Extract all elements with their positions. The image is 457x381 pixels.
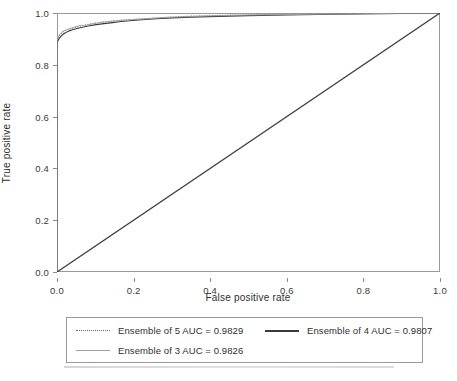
y-tick-mark [53,117,57,118]
legend: Ensemble of 5 AUC = 0.9829 Ensemble of 4… [66,317,423,363]
legend-label-ensemble-of-4: Ensemble of 4 AUC = 0.9807 [307,325,432,336]
legend-line-swatch-dotted-icon [76,325,110,335]
x-tick-mark [134,278,135,282]
x-tick-mark [57,278,58,282]
y-tick-mark [53,272,57,273]
y-tick-label: 0.2 [23,215,49,226]
y-tick-label: 1.0 [23,8,49,19]
y-tick-mark [53,65,57,66]
y-tick-mark [53,220,57,221]
y-tick-mark [53,168,57,169]
x-axis-label: False positive rate [206,292,291,303]
chance-diagonal-line [57,13,440,272]
x-tick-mark [363,278,364,282]
legend-line-swatch-solid-light-icon [76,345,110,355]
y-tick-mark [53,13,57,14]
legend-item-ensemble-of-5: Ensemble of 5 AUC = 0.9829 [76,323,243,337]
x-tick-label: 0.2 [127,285,141,296]
legend-item-ensemble-of-3: Ensemble of 3 AUC = 0.9826 [76,343,243,357]
y-tick-label: 0.4 [23,163,49,174]
y-axis-label: True positive rate [1,103,12,184]
y-tick-label: 0.6 [23,111,49,122]
scan-artifact [64,366,394,368]
y-tick-label: 0.0 [23,267,49,278]
legend-line-swatch-solid-dark-icon [265,325,299,335]
x-tick-mark [440,278,441,282]
x-tick-label: 0.8 [356,285,370,296]
legend-label-ensemble-of-5: Ensemble of 5 AUC = 0.9829 [118,325,243,336]
x-tick-mark [287,278,288,282]
y-tick-label: 0.8 [23,59,49,70]
legend-item-ensemble-of-4: Ensemble of 4 AUC = 0.9807 [265,323,432,337]
legend-label-ensemble-of-3: Ensemble of 3 AUC = 0.9826 [118,345,243,356]
x-tick-label: 0.0 [50,285,64,296]
roc-curves-canvas [57,13,440,272]
plot-area [57,13,440,272]
roc-chart-figure: 0.00.20.40.60.81.0 True positive rate 0.… [0,0,457,381]
x-tick-label: 1.0 [433,285,447,296]
x-tick-mark [210,278,211,282]
